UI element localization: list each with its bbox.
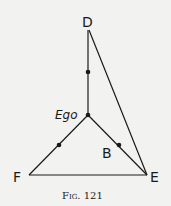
label-ego: Ego [55, 108, 78, 122]
label-d: D [82, 14, 93, 30]
label-e: E [150, 169, 159, 185]
dot-b [117, 143, 122, 148]
edge-d-e [89, 30, 147, 175]
label-f: F [13, 169, 21, 185]
label-b: B [102, 145, 112, 161]
figure-caption: Fig. 121 [62, 190, 103, 201]
dot-ego [86, 113, 91, 118]
dot-ego-f-mid [57, 143, 62, 148]
dot-d-ego-mid [86, 70, 91, 75]
kinship-diagram: D Ego B F E Fig. 121 [0, 0, 171, 206]
